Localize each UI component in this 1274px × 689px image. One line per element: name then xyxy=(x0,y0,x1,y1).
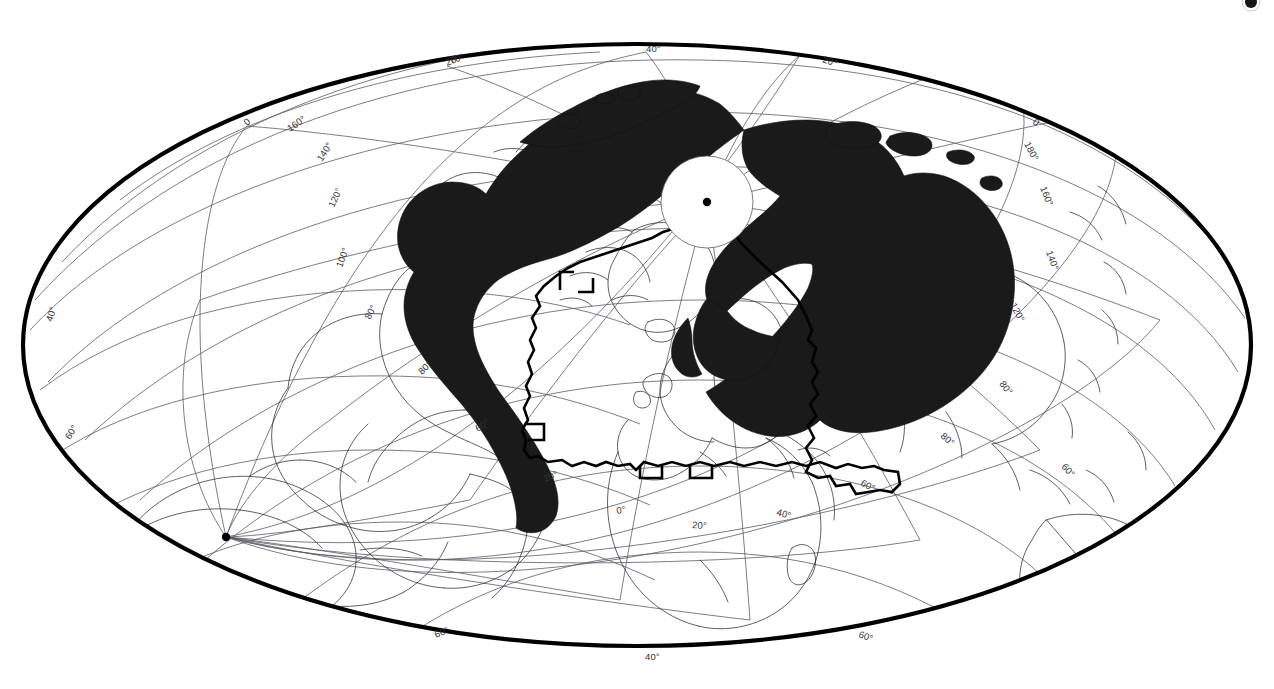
grat-label: 140° xyxy=(1044,249,1061,272)
grat-label: 180° xyxy=(1022,140,1041,163)
grat-label: 80° xyxy=(362,303,379,321)
grat-label: 160° xyxy=(1038,185,1056,208)
grat-label: 60° xyxy=(857,629,875,644)
grat-label: 20° xyxy=(692,519,707,531)
south-pole-dot xyxy=(222,533,230,541)
grat-label: 0° xyxy=(615,504,626,516)
grat-label: 40° xyxy=(645,651,660,662)
grat-label: 20° xyxy=(821,54,839,69)
grat-label: 80° xyxy=(939,430,957,448)
map-figure: 20° 40° 20° 0 160° 140° 120° 100° 80° 70… xyxy=(0,0,1274,689)
grat-label: 60° xyxy=(433,624,451,640)
grat-label: 80° xyxy=(997,378,1015,396)
grat-label: 40° xyxy=(43,305,58,322)
grat-label: 120° xyxy=(326,186,344,209)
grat-label: 40° xyxy=(775,506,792,521)
world-map-svg: 20° 40° 20° 0 160° 140° 120° 100° 80° 70… xyxy=(0,0,1274,689)
grat-label: 40° xyxy=(646,43,661,54)
grat-label: 70° xyxy=(448,51,465,66)
page-corner-mark xyxy=(1242,0,1260,11)
north-pole-dot xyxy=(703,198,711,206)
grat-label: 60° xyxy=(62,423,79,441)
grat-label: 100° xyxy=(334,246,351,269)
grat-label: 0 xyxy=(241,116,252,128)
grat-label: 60° xyxy=(1060,461,1078,479)
grat-label: 140° xyxy=(314,140,334,163)
